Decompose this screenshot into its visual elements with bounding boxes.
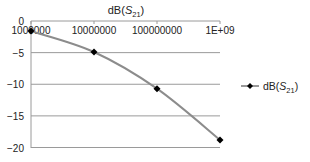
x-tick-label: 1E+09	[205, 25, 235, 36]
legend-marker-icon	[247, 83, 253, 89]
series-line	[31, 31, 220, 140]
data-point-marker	[91, 48, 98, 55]
x-tick-label: 10000000	[72, 25, 117, 36]
y-tick-labels: 0−5−10−15−20	[7, 16, 24, 154]
x-tick-label: 100000000	[132, 25, 182, 36]
chart-title: dB(S21)	[108, 4, 144, 19]
legend-label: dB(S21)	[263, 80, 298, 95]
y-tick-label: −10	[7, 79, 24, 90]
series-markers	[28, 28, 224, 144]
y-tick-label: −5	[13, 48, 25, 59]
y-tick-label: −20	[7, 143, 24, 154]
x-tick-labels: 1000000100000001000000001E+09	[12, 21, 236, 36]
legend: dB(S21)	[241, 80, 298, 95]
line-chart: dB(S21) 0−5−10−15−20 1000000100000001000…	[0, 0, 310, 162]
y-tick-label: −15	[7, 111, 24, 122]
